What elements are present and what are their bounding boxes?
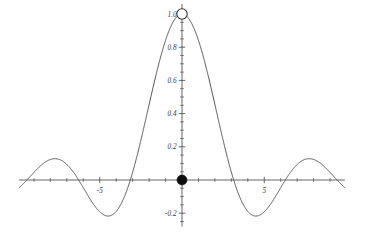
x-tick-label: -5	[97, 187, 103, 195]
y-tick-label: 0.4	[168, 110, 177, 118]
axes-group	[19, 4, 345, 226]
y-tick-label: -0.2	[165, 210, 177, 218]
filled-point	[177, 175, 187, 185]
x-tick-label: 5	[262, 187, 266, 195]
y-tick-label: 0.2	[168, 143, 177, 151]
y-tick-label: 0.8	[168, 44, 177, 52]
y-tick-label: 1.0	[168, 11, 177, 19]
y-tick-label: 0.6	[168, 77, 177, 85]
sinc-function-plot: -0.20.20.40.60.81.0-55	[0, 0, 366, 234]
open-circle-hole	[177, 9, 187, 19]
plot-canvas: -0.20.20.40.60.81.0-55	[0, 0, 366, 234]
